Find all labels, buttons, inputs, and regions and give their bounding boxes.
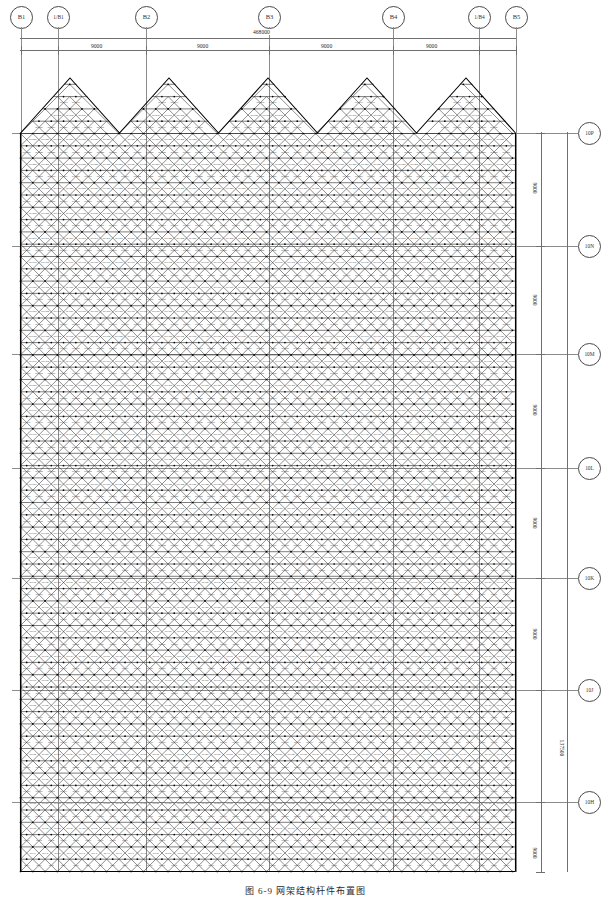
svg-text:WJ-1-1681: WJ-1-1681 — [23, 348, 31, 349]
svg-text:WJ-1-1787: WJ-1-1787 — [343, 324, 351, 325]
svg-text:WJ-1-959: WJ-1-959 — [497, 582, 504, 583]
svg-text:WJ-1-64: WJ-1-64 — [313, 853, 319, 854]
svg-text:WJ-1-634: WJ-1-634 — [435, 680, 442, 681]
svg-text:WJ-1-1067: WJ-1-1067 — [343, 545, 351, 546]
svg-text:WJ-1-2159: WJ-1-2159 — [496, 213, 504, 214]
svg-text:WJ-1-521: WJ-1-521 — [29, 705, 36, 706]
svg-text:WJ-1-1444: WJ-1-1444 — [60, 422, 68, 423]
svg-text:WJ-1-2429: WJ-1-2429 — [164, 115, 172, 116]
svg-text:WJ-1-472: WJ-1-472 — [411, 730, 418, 731]
svg-text:WJ-1-1486: WJ-1-1486 — [91, 410, 99, 411]
svg-text:WJ-1-1557: WJ-1-1557 — [466, 398, 474, 399]
svg-text:WJ-1-2193: WJ-1-2193 — [416, 201, 424, 202]
svg-text:WJ-1-1991: WJ-1-1991 — [398, 262, 406, 263]
svg-text:WJ-1-2407: WJ-1-2407 — [195, 127, 203, 128]
svg-text:WJ-1-1269: WJ-1-1269 — [373, 484, 381, 485]
svg-text:WJ-1-49: WJ-1-49 — [128, 853, 134, 854]
svg-text:WJ-1-760: WJ-1-760 — [503, 644, 510, 645]
svg-text:WJ-1-1305: WJ-1-1305 — [318, 471, 326, 472]
svg-text:WJ-1-850: WJ-1-850 — [140, 607, 147, 608]
svg-text:WJ-1-1943: WJ-1-1943 — [293, 275, 301, 276]
svg-text:WJ-1-2023: WJ-1-2023 — [293, 250, 301, 251]
svg-text:WJ-1-1033: WJ-1-1033 — [423, 557, 431, 558]
svg-text:WJ-1-1921: WJ-1-1921 — [23, 275, 31, 276]
svg-text:WJ-1-1432: WJ-1-1432 — [410, 434, 418, 435]
svg-text:WJ-1-1026: WJ-1-1026 — [337, 557, 345, 558]
svg-text:WJ-1-813: WJ-1-813 — [171, 619, 178, 620]
svg-text:WJ-1-2284: WJ-1-2284 — [66, 164, 74, 165]
svg-text:WJ-1-787: WJ-1-787 — [349, 631, 356, 632]
svg-text:WJ-1-1548: WJ-1-1548 — [355, 398, 363, 399]
svg-text:WJ-1-376: WJ-1-376 — [214, 754, 221, 755]
svg-text:WJ-1-581: WJ-1-581 — [269, 693, 276, 694]
svg-text:WJ-1-62: WJ-1-62 — [288, 853, 294, 854]
svg-text:WJ-1-1243: WJ-1-1243 — [54, 484, 62, 485]
svg-text:WJ-1-2147: WJ-1-2147 — [349, 213, 357, 214]
svg-text:WJ-1-2131: WJ-1-2131 — [152, 213, 160, 214]
svg-text:WJ-1-269: WJ-1-269 — [368, 791, 375, 792]
svg-text:WJ-1-1030: WJ-1-1030 — [386, 557, 394, 558]
svg-text:WJ-1-1406: WJ-1-1406 — [91, 434, 99, 435]
svg-text:WJ-1-519: WJ-1-519 — [491, 717, 498, 718]
svg-text:WJ-1-864: WJ-1-864 — [312, 607, 319, 608]
svg-text:WJ-1-2188: WJ-1-2188 — [355, 201, 363, 202]
svg-text:WJ-1-1114: WJ-1-1114 — [435, 533, 442, 534]
svg-text:WJ-1-2329: WJ-1-2329 — [121, 152, 129, 153]
svg-text:WJ-1-1547: WJ-1-1547 — [343, 398, 351, 399]
svg-text:WJ-1-1166: WJ-1-1166 — [91, 508, 99, 509]
svg-text:WJ-1-530: WJ-1-530 — [140, 705, 147, 706]
svg-text:WJ-1-1798: WJ-1-1798 — [478, 324, 486, 325]
svg-text:WJ-1-1251: WJ-1-1251 — [152, 484, 160, 485]
svg-text:WJ-1-1195: WJ-1-1195 — [447, 508, 455, 509]
svg-text:WJ-1-2418: WJ-1-2418 — [380, 127, 388, 128]
svg-text:WJ-1-343: WJ-1-343 — [294, 767, 301, 768]
svg-text:WJ-1-254: WJ-1-254 — [183, 791, 190, 792]
svg-text:WJ-1-1914: WJ-1-1914 — [435, 287, 443, 288]
svg-text:WJ-1-2321: WJ-1-2321 — [23, 152, 31, 153]
svg-text:WJ-1-1815: WJ-1-1815 — [201, 311, 209, 312]
svg-text:WJ-1-1489: WJ-1-1489 — [127, 410, 135, 411]
svg-text:WJ-1-90: WJ-1-90 — [134, 840, 140, 841]
svg-text:WJ-1-1619: WJ-1-1619 — [244, 373, 252, 374]
svg-text:WJ-1-1630: WJ-1-1630 — [380, 373, 388, 374]
svg-text:WJ-1-2112: WJ-1-2112 — [404, 225, 412, 226]
svg-text:WJ-1-1678: WJ-1-1678 — [484, 361, 492, 362]
svg-text:WJ-1-1458: WJ-1-1458 — [232, 422, 240, 423]
svg-text:WJ-1-1969: WJ-1-1969 — [127, 262, 135, 263]
svg-text:WJ-1-246: WJ-1-246 — [85, 791, 92, 792]
svg-text:WJ-1-2393: WJ-1-2393 — [472, 139, 480, 140]
svg-text:WJ-1-560: WJ-1-560 — [509, 705, 516, 706]
svg-text:WJ-1-1118: WJ-1-1118 — [484, 533, 491, 534]
svg-text:WJ-1-1003: WJ-1-1003 — [54, 557, 62, 558]
svg-text:WJ-1-437: WJ-1-437 — [466, 742, 473, 743]
svg-text:WJ-1-1804: WJ-1-1804 — [66, 311, 74, 312]
svg-text:WJ-1-1252: WJ-1-1252 — [164, 484, 172, 485]
svg-text:WJ-1-1349: WJ-1-1349 — [373, 459, 381, 460]
svg-text:WJ-1-877: WJ-1-877 — [472, 607, 479, 608]
svg-text:WJ-1-123: WJ-1-123 — [54, 828, 61, 829]
svg-text:WJ-1-764: WJ-1-764 — [66, 631, 73, 632]
svg-text:WJ-1-1851: WJ-1-1851 — [146, 299, 154, 300]
svg-text:WJ-1-1995: WJ-1-1995 — [447, 262, 455, 263]
svg-text:WJ-1-2325: WJ-1-2325 — [72, 152, 80, 153]
svg-text:WJ-1-1549: WJ-1-1549 — [367, 398, 375, 399]
svg-text:WJ-1-753: WJ-1-753 — [417, 644, 424, 645]
svg-text:WJ-1-729: WJ-1-729 — [122, 644, 129, 645]
svg-text:WJ-1-1025: WJ-1-1025 — [324, 557, 332, 558]
svg-text:WJ-1-2337: WJ-1-2337 — [220, 152, 228, 153]
svg-text:WJ-1-2274: WJ-1-2274 — [429, 176, 437, 177]
svg-text:WJ-1-367: WJ-1-367 — [103, 754, 110, 755]
svg-text:WJ-1-84: WJ-1-84 — [61, 840, 67, 841]
svg-text:WJ-1-2150: WJ-1-2150 — [386, 213, 394, 214]
svg-text:WJ-1-377: WJ-1-377 — [226, 754, 233, 755]
svg-text:WJ-1-9: WJ-1-9 — [123, 865, 128, 866]
svg-text:WJ-1-1795: WJ-1-1795 — [441, 324, 449, 325]
svg-text:WJ-1-1214: WJ-1-1214 — [183, 496, 191, 497]
svg-text:WJ-1-993: WJ-1-993 — [417, 570, 424, 571]
svg-text:WJ-1-284: WJ-1-284 — [66, 779, 73, 780]
svg-text:WJ-1-1891: WJ-1-1891 — [152, 287, 160, 288]
svg-text:WJ-1-1937: WJ-1-1937 — [220, 275, 228, 276]
svg-text:WJ-1-917: WJ-1-917 — [466, 594, 473, 595]
svg-text:WJ-1-1501: WJ-1-1501 — [275, 410, 283, 411]
svg-text:WJ-1-134: WJ-1-134 — [189, 828, 196, 829]
